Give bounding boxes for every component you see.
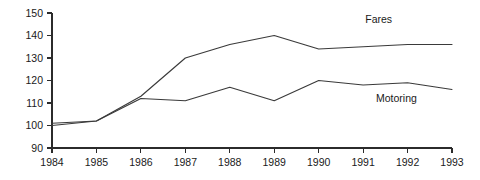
- x-tick-label: 1993: [440, 156, 464, 168]
- x-tick-label: 1988: [218, 156, 242, 168]
- series-group: [52, 36, 452, 126]
- x-axis: 1984198519861987198819891990199119921993: [40, 148, 464, 168]
- x-tick-label: 1991: [351, 156, 375, 168]
- y-tick-label: 110: [26, 97, 43, 109]
- x-tick-label: 1992: [396, 156, 420, 168]
- x-tick-label: 1987: [174, 156, 198, 168]
- x-tick-label: 1986: [129, 156, 153, 168]
- series-annotation-group: FaresMotoring: [365, 13, 417, 104]
- series-line-fares: [52, 36, 452, 126]
- y-tick-label: 140: [25, 29, 43, 41]
- line-chart: 90100110120130140150 1984198519861987198…: [0, 0, 480, 180]
- x-tick-label: 1990: [307, 156, 331, 168]
- x-tick-group: 1984198519861987198819891990199119921993: [40, 148, 464, 168]
- y-tick-label: 100: [25, 119, 43, 131]
- series-label-fares: Fares: [365, 13, 392, 25]
- x-tick-label: 1985: [85, 156, 109, 168]
- y-tick-label: 130: [25, 52, 43, 64]
- y-axis: 90100110120130140150: [25, 7, 52, 154]
- y-tick-label: 120: [25, 74, 43, 86]
- series-label-motoring: Motoring: [376, 92, 417, 104]
- y-tick-label: 150: [25, 7, 43, 19]
- chart-canvas: 90100110120130140150 1984198519861987198…: [0, 0, 480, 180]
- x-tick-label: 1989: [263, 156, 287, 168]
- y-tick-group: 90100110120130140150: [25, 7, 52, 154]
- x-tick-label: 1984: [40, 156, 64, 168]
- y-tick-label: 90: [31, 142, 43, 154]
